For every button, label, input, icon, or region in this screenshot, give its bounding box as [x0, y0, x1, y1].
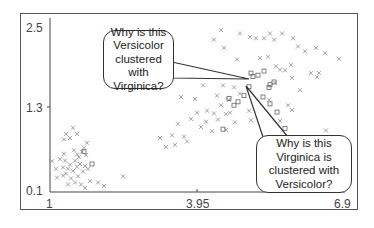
cross-marker — [289, 63, 293, 67]
cross-marker — [195, 111, 199, 115]
square-marker — [236, 100, 240, 104]
cross-marker — [102, 184, 106, 188]
cross-marker — [83, 186, 87, 190]
callout-tail-versicolor — [172, 62, 249, 79]
cross-marker — [272, 38, 276, 42]
cross-marker — [317, 71, 321, 75]
cross-marker — [235, 57, 239, 61]
cross-marker — [88, 179, 92, 183]
cross-marker — [219, 103, 223, 107]
cross-marker — [238, 31, 242, 35]
cross-marker — [262, 36, 266, 40]
cross-marker — [267, 98, 271, 102]
cross-marker — [216, 118, 220, 122]
cross-marker — [50, 159, 54, 163]
cross-marker — [278, 68, 282, 72]
cross-marker — [254, 36, 258, 40]
cross-marker — [309, 71, 313, 75]
cross-marker — [193, 97, 197, 101]
cross-marker — [78, 162, 82, 166]
square-marker — [268, 102, 272, 106]
cross-marker — [185, 139, 189, 143]
cross-marker — [68, 136, 72, 140]
square-marker — [261, 95, 265, 99]
callout-tails — [172, 62, 288, 137]
scatter-plot: 2.5 1.3 0.1 1 3.95 6.9 — [0, 0, 374, 228]
square-marker — [232, 103, 236, 107]
cross-marker — [290, 108, 294, 112]
cross-marker — [77, 155, 81, 159]
square-marker — [256, 73, 260, 77]
cross-marker — [268, 31, 272, 35]
square-marker — [262, 69, 266, 73]
cross-marker — [286, 103, 290, 107]
cross-marker — [296, 44, 300, 48]
cross-marker — [283, 68, 287, 72]
x-tick-label-left: 1 — [46, 197, 53, 211]
square-marker — [283, 126, 287, 130]
cross-marker — [96, 180, 100, 184]
cross-marker — [227, 98, 231, 102]
y-tick-label-mid: 1.3 — [26, 101, 43, 115]
cross-marker — [210, 129, 214, 133]
cross-marker — [278, 119, 282, 123]
cross-marker — [61, 165, 65, 169]
cross-marker — [63, 159, 67, 163]
cross-marker — [75, 132, 79, 136]
cross-marker — [69, 176, 73, 180]
cross-marker — [79, 182, 83, 186]
y-tick-label-bottom: 0.1 — [26, 184, 43, 198]
cross-marker — [58, 157, 62, 161]
cross-marker — [158, 136, 162, 140]
cross-marker — [62, 137, 66, 141]
square-marker — [242, 94, 246, 98]
cross-marker — [86, 167, 90, 171]
cross-marker — [323, 51, 327, 55]
cross-marker — [66, 167, 70, 171]
y-tick-label-top: 2.5 — [26, 21, 43, 35]
cross-marker — [219, 28, 223, 32]
cross-marker — [337, 57, 341, 61]
cross-marker — [212, 111, 216, 115]
cross-marker — [232, 85, 236, 89]
cross-marker — [315, 75, 319, 79]
cross-marker — [222, 46, 226, 50]
callout-tail-virginica — [246, 86, 288, 137]
cross-marker — [176, 122, 180, 126]
cross-marker — [54, 167, 58, 171]
cross-marker — [290, 76, 294, 80]
cross-marker — [81, 170, 85, 174]
cross-marker — [247, 109, 251, 113]
cross-marker — [66, 182, 70, 186]
cross-marker — [249, 118, 253, 122]
x-tick-label-right: 6.9 — [334, 197, 351, 211]
cross-marker — [182, 135, 186, 139]
callout-versicolor-question: Why is this Versicolor clustered with Vi… — [103, 30, 174, 89]
cross-marker — [164, 145, 168, 149]
cross-marker — [258, 56, 262, 60]
callout-virginica-question: Why is this Virginica is clustered with … — [256, 135, 352, 193]
square-marker — [82, 150, 86, 154]
x-tick-label-mid: 3.95 — [186, 197, 210, 211]
cross-marker — [170, 133, 174, 137]
cross-marker — [62, 152, 66, 156]
cross-marker — [76, 174, 80, 178]
cross-marker — [121, 174, 125, 178]
cross-marker — [303, 49, 307, 53]
cross-marker — [55, 176, 59, 180]
cross-marker — [68, 163, 72, 167]
cross-marker — [212, 38, 216, 42]
cross-marker — [82, 146, 86, 150]
cross-marker — [189, 117, 193, 121]
cross-marker — [238, 92, 242, 96]
square-marker — [275, 110, 279, 114]
cross-marker — [72, 148, 76, 152]
cross-marker — [324, 129, 328, 133]
cross-marker — [201, 83, 205, 87]
cross-marker — [75, 152, 79, 156]
cross-marker — [248, 35, 252, 39]
cross-marker — [73, 180, 77, 184]
cross-marker — [266, 55, 270, 59]
cross-marker — [71, 169, 75, 173]
cross-marker — [224, 112, 228, 116]
